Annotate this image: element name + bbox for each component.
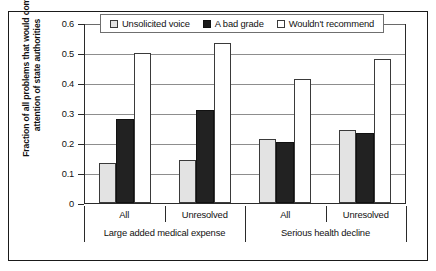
x-label-tier2-0: Large added medical expense — [84, 224, 245, 240]
x-label-tier2-1: Serious health decline — [245, 224, 406, 240]
y-tick-label-0.6: 0.6 — [44, 19, 74, 29]
legend-item-0: Unsolicited voice — [110, 18, 190, 29]
bar — [374, 59, 391, 203]
y-tick-label-0: 0 — [44, 199, 74, 209]
bar — [339, 130, 356, 204]
x-sep-tier1-2 — [245, 206, 246, 222]
y-tick-label-0.4: 0.4 — [44, 79, 74, 89]
bar-group-1 — [165, 24, 245, 203]
legend-label-1: A bad grade — [215, 18, 264, 29]
bar — [356, 133, 373, 204]
bar — [196, 110, 213, 203]
bar-group-2 — [245, 24, 325, 203]
bar — [99, 163, 116, 204]
legend-item-2: Wouldn't recommend — [277, 18, 374, 29]
x-sep-tier2-2 — [406, 222, 407, 242]
x-sep-tier2-0 — [84, 222, 85, 242]
x-sep-tier1-4 — [406, 206, 407, 222]
legend-swatch-unsolicited-voice — [110, 20, 118, 28]
legend-swatch-a-bad-grade — [203, 20, 211, 28]
y-tick-label-0.1: 0.1 — [44, 169, 74, 179]
y-tick-mark-0 — [78, 204, 84, 205]
bar — [134, 53, 151, 203]
bar-groups — [85, 24, 405, 203]
legend: Unsolicited voice A bad grade Wouldn't r… — [100, 14, 384, 33]
y-tick-label-0.5: 0.5 — [44, 49, 74, 59]
legend-item-1: A bad grade — [203, 18, 264, 29]
x-label-tier1-0: All — [84, 206, 165, 222]
legend-label-0: Unsolicited voice — [122, 18, 190, 29]
y-tick-label-0.3: 0.3 — [44, 109, 74, 119]
bar — [294, 79, 311, 204]
bar-group-0 — [85, 24, 165, 203]
bar — [276, 142, 293, 204]
x-sep-tier1-3 — [326, 206, 327, 222]
legend-label-2: Wouldn't recommend — [289, 18, 374, 29]
chart-figure: Fraction of all problems that would come… — [0, 0, 436, 271]
bar — [259, 139, 276, 204]
y-axis-title: Fraction of all problems that would come… — [17, 0, 47, 170]
bar-group-3 — [325, 24, 405, 203]
bar — [179, 160, 196, 204]
x-label-tier1-1: Unresolved — [165, 206, 246, 222]
bar — [116, 119, 133, 203]
x-label-tier1-3: Unresolved — [326, 206, 407, 222]
bar — [214, 43, 231, 204]
x-sep-tier1-0 — [84, 206, 85, 222]
plot-area — [84, 24, 406, 204]
y-tick-label-0.2: 0.2 — [44, 139, 74, 149]
x-label-tier1-2: All — [245, 206, 326, 222]
x-sep-tier1-1 — [165, 206, 166, 222]
x-sep-tier2-1 — [245, 222, 246, 242]
legend-swatch-wouldnt-recommend — [277, 20, 285, 28]
